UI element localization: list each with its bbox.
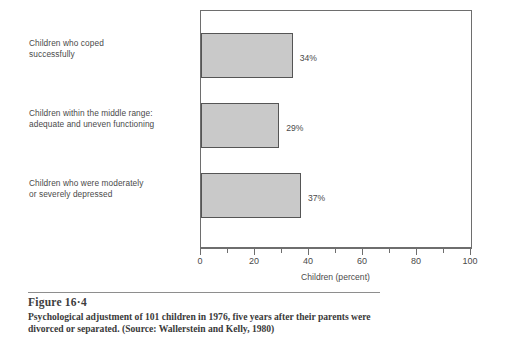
category-label-line: Children who were moderately [29,178,194,189]
figure-container: Children who coped successfully Children… [0,0,505,342]
x-axis-tick [281,248,282,253]
x-axis-tick [254,248,255,255]
x-axis-tick-label: 40 [303,256,313,266]
bar-depressed [201,173,301,218]
category-label-depressed: Children who were moderately or severely… [29,178,194,201]
x-axis-title: Children (percent) [200,272,471,282]
x-axis-tick [470,248,471,255]
bar-value-middle-range: 29% [286,123,303,133]
x-axis-tick [362,248,363,255]
category-label-line: adequate and uneven functioning [29,119,194,130]
x-axis-tick [389,248,390,253]
bar-value-coped-successfully: 34% [300,53,317,63]
category-label-line: or severely depressed [29,189,194,200]
figure-number: Figure 16·4 [28,296,87,308]
x-axis-tick-label: 20 [249,256,259,266]
x-axis-tick-label: 100 [462,256,477,266]
x-axis-tick [443,248,444,253]
x-axis-tick-label: 80 [411,256,421,266]
category-label-line: successfully [29,49,194,60]
x-axis-tick-label: 60 [357,256,367,266]
bar-coped-successfully [201,33,293,78]
bar-value-depressed: 37% [308,193,325,203]
category-label-coped-successfully: Children who coped successfully [29,38,194,61]
category-label-line: Children within the middle range: [29,108,194,119]
x-axis-tick [335,248,336,253]
category-label-middle-range: Children within the middle range: adequa… [29,108,194,131]
x-axis-tick [200,248,201,255]
x-axis-tick [416,248,417,255]
bar-middle-range [201,103,279,148]
caption-divider [28,292,380,293]
plot-area: 34% 29% 37% [200,10,472,249]
x-axis-tick [308,248,309,255]
figure-caption: Psychological adjustment of 101 children… [28,311,398,334]
category-label-line: Children who coped [29,38,194,49]
x-axis-tick-label: 0 [197,256,202,266]
x-axis-tick [227,248,228,253]
